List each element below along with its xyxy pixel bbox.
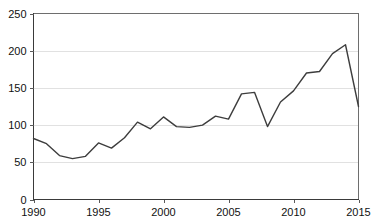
x-axis-tick-label: 2005 — [216, 206, 240, 218]
chart-frame — [33, 14, 359, 200]
gridlines — [34, 52, 359, 163]
y-axis-ticks — [30, 15, 34, 201]
y-axis-tick-label: 150 — [8, 82, 26, 94]
data-series-group — [34, 45, 359, 159]
axes — [33, 13, 359, 200]
y-axis-labels: 250200150100500 — [8, 8, 26, 206]
x-axis-tick-label: 1995 — [86, 206, 110, 218]
y-axis-tick-label: 200 — [8, 45, 26, 57]
y-axis-tick-label: 0 — [20, 194, 26, 206]
x-axis-tick-label: 2000 — [151, 206, 175, 218]
x-axis-tick-label: 2010 — [281, 206, 305, 218]
y-axis-tick-label: 100 — [8, 119, 26, 131]
line-chart: 250200150100500 199019952000200520102015 — [0, 0, 383, 223]
x-axis-tick-label: 1990 — [21, 206, 45, 218]
y-axis-tick-label: 50 — [14, 156, 26, 168]
data-line-series-1 — [34, 45, 359, 159]
x-axis-labels: 199019952000200520102015 — [21, 206, 370, 218]
chart-container: 250200150100500 199019952000200520102015 — [0, 0, 383, 223]
y-axis-tick-label: 250 — [8, 8, 26, 20]
x-axis-tick-label: 2015 — [346, 206, 370, 218]
